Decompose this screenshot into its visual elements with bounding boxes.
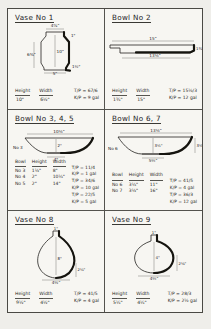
dim-right: 2¼" (78, 267, 86, 272)
dim-side-height: 6⅜" (27, 52, 36, 57)
formula-tp: T/P = 11/4 (72, 165, 99, 172)
table-cell-bowl: No 3 (15, 168, 26, 175)
spec-value-height: 5¼" (112, 300, 127, 307)
spec-header-height: Height (15, 88, 30, 96)
formula-kp: K/P = 9 gal (74, 95, 99, 102)
spec-value-width: 6½" (39, 97, 52, 104)
bowl-345-table: Bowl No 3 No 4 No 5 Height 1½" 2" 2" Wid… (15, 159, 99, 206)
panel-vase-1: Vase No 1 4⅞" 10" 6⅜" 5" 1" 1½" (8, 9, 105, 110)
dim-height: 2" (58, 143, 62, 148)
table-header-bowl: Bowl (112, 172, 123, 180)
bowl-67-table: Bowl No 6 No 7 Height 3¼" 3½" Width 11" … (112, 172, 197, 206)
spec-value-height: 10" (15, 97, 30, 104)
formula-tp: T/P = 34/6 (72, 178, 99, 185)
table-header-height: Height (32, 159, 47, 167)
spec-header-width: Width (136, 291, 149, 299)
panel-vase-9: Vase No 9 1" 4" 4¼" 2⅛" (105, 211, 202, 312)
spec-header-width: Width (136, 88, 149, 96)
vase-8-specs: Height 9½" Width 4½" T/P = 41/5 K/P = 4 … (15, 291, 99, 307)
table-cell-width: 14" (53, 181, 66, 188)
formula-kp: K/P = 12 gal (170, 199, 197, 206)
formula-kp: K/P = 5 gal (72, 199, 99, 206)
dim-height: 8" (58, 256, 62, 261)
vase-9-drawing: 1" 4" 4¼" 2⅛" (105, 229, 202, 283)
table-cell-bowl: No 7 (112, 188, 123, 195)
table-cell-width: 10¼" (53, 174, 66, 181)
spec-value-width: 15" (136, 97, 149, 104)
formula-kp: K/P = 4 gal (74, 298, 99, 305)
table-header-width: Width (53, 159, 66, 167)
table-cell-bowl: No 5 (15, 181, 26, 188)
dim-base-width: 4½" (52, 280, 61, 285)
spec-header-height: Height (112, 291, 127, 299)
panel-title: Bowl No 3, 4, 5 (15, 114, 74, 123)
spec-header-height: Height (15, 291, 30, 299)
panel-bowl-345: Bowl No 3, 4, 5 10½" 4" 2" No 3 (8, 110, 105, 211)
bowl-345-formulas: T/P = 11/4 K/P = 1 gal T/P = 34/6 K/P = … (72, 159, 99, 206)
table-cell-width: 8" (53, 168, 66, 175)
formula-tp: T/P = 22/5 (72, 192, 99, 199)
formula-kp: K/P = 4 gal (170, 185, 197, 192)
panel-bowl-67: Bowl No 6, 7 13½" 5¼" 3½" 3½" No 6 (105, 110, 202, 211)
dim-height: 4" (155, 255, 159, 260)
reference-sheet: Vase No 1 4⅞" 10" 6⅜" 5" 1" 1½" (7, 8, 203, 313)
table-header-height: Height (129, 172, 144, 180)
formula-kp: K/P = 10 gal (72, 185, 99, 192)
table-cell-height: 2" (32, 174, 47, 181)
table-cell-height: 3½" (129, 188, 144, 195)
dim-height: 1¾" (196, 46, 202, 51)
spec-header-width: Width (39, 88, 52, 96)
formula-kp: K/P = 2½ gal (168, 298, 197, 305)
dim-neck: 1" (151, 230, 155, 235)
panel-title: Bowl No 6, 7 (112, 114, 161, 123)
dim-top-width: 13½" (150, 128, 161, 133)
dim-base-width: 13½" (149, 53, 160, 58)
vase-8-drawing: 1" 8" 4½" 2¼" (8, 227, 104, 285)
dim-top-width: 4⅞" (51, 23, 60, 28)
dim-top-width: 10½" (53, 129, 64, 134)
panel-title: Vase No 9 (112, 215, 151, 224)
vase-1-specs: Height 10" Width 6½" T/P = 67/6 K/P = 9 … (15, 88, 99, 104)
panel-title: Vase No 1 (15, 13, 54, 22)
table-cell-height: 2" (32, 181, 47, 188)
table-cell-width: 16" (150, 188, 163, 195)
table-cell-height: 1½" (32, 168, 47, 175)
bowl-67-drawing: 13½" 5¼" 3½" 3½" No 6 (105, 124, 202, 168)
table-header-bowl: Bowl (15, 159, 26, 167)
bowl-67-formulas: T/P = 41/5 K/P = 4 gal T/P = 36/3 K/P = … (170, 172, 197, 206)
bowl-67-side-label: No 6 (108, 146, 118, 151)
dim-right: 3½" (196, 143, 202, 148)
vase-1-drawing: 4⅞" 10" 6⅜" 5" 1" 1½" (8, 23, 104, 75)
table-cell-bowl: No 6 (112, 182, 123, 189)
formula-tp: T/P = 36/3 (170, 192, 197, 199)
dim-base-width: 5" (53, 71, 58, 75)
dim-base-width: 5¼" (148, 158, 157, 163)
table-cell-bowl: No 4 (15, 174, 26, 181)
spec-value-width: 4½" (39, 300, 52, 307)
bowl-345-side-label: No 3 (13, 145, 23, 150)
vase-9-specs: Height 5¼" Width 4¼" T/P = 28/3 K/P = 2½… (112, 291, 197, 307)
spec-header-width: Width (39, 291, 52, 299)
formula-kp: K/P = 1 gal (72, 171, 99, 178)
bowl-2-drawing: 15" 13½" 1¾" (105, 23, 202, 75)
table-cell-height: 3¼" (129, 182, 144, 189)
dim-right: 2⅛" (178, 261, 186, 266)
dim-foot: 1½" (72, 64, 80, 69)
spec-value-height: 9½" (15, 300, 30, 307)
spec-value-width: 4¼" (136, 300, 149, 307)
panel-bowl-2: Bowl No 2 15" 13½" 1¾" Height (105, 9, 202, 110)
dim-height: 3½" (154, 143, 162, 148)
table-cell-width: 11" (150, 182, 163, 189)
dim-rim: 1" (71, 33, 76, 38)
dim-base-width: 4¼" (149, 276, 158, 281)
table-header-width: Width (150, 172, 163, 180)
spec-value-height: 1¾" (112, 97, 127, 104)
panel-title: Vase No 8 (15, 215, 54, 224)
dim-height: 10" (57, 49, 64, 54)
formula-kp: K/P = 12 gal (169, 95, 197, 102)
dim-top-width: 15" (149, 36, 156, 41)
formula-tp: T/P = 41/5 (170, 178, 197, 185)
dim-neck: 1" (54, 227, 58, 231)
panel-title: Bowl No 2 (112, 13, 151, 22)
spec-header-height: Height (112, 88, 127, 96)
